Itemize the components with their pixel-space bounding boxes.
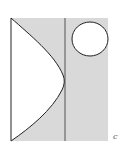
diagram-svg xyxy=(0,0,121,150)
figure-label: c xyxy=(113,132,117,141)
white-circle xyxy=(72,22,108,56)
diagram-figure: c xyxy=(0,0,121,150)
